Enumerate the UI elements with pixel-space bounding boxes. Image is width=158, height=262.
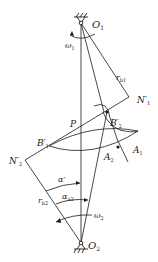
label-a2: A2	[103, 152, 114, 163]
label-alpha-a2: αa2	[62, 192, 74, 202]
contact-point-b2	[105, 110, 108, 113]
label-o2: O2	[88, 240, 100, 252]
label-b1-prime: B′1	[36, 138, 49, 149]
o1-a2-line	[81, 23, 104, 112]
label-rb1: rb1	[116, 73, 126, 83]
label-alpha-prime: α′	[58, 175, 65, 184]
base-radius-rb1	[81, 23, 129, 97]
label-n1-prime: N′1	[136, 95, 150, 106]
pivot-o1-icon	[74, 13, 88, 25]
label-a1: A1	[132, 145, 143, 156]
label-rb2: rb2	[38, 196, 48, 206]
alpha-a2-arrow-icon	[84, 198, 88, 202]
alpha-prime-arc	[46, 183, 80, 191]
label-b2-prime: B′2	[109, 118, 122, 129]
pivot-o2-icon	[74, 241, 88, 253]
label-omega2: ω2	[94, 211, 104, 221]
contact-point-a2	[116, 145, 119, 148]
label-p: P	[69, 119, 77, 129]
label-o1: O1	[92, 19, 104, 31]
omega2-arrow-icon	[56, 218, 61, 223]
label-omega1: ω1	[65, 41, 75, 51]
alpha-prime-arrow-icon	[76, 181, 80, 185]
omega1-arc	[70, 34, 95, 38]
label-n2-prime: N′2	[8, 156, 22, 167]
gear-mesh-diagram: O1 ω1 rb1 N′1 P B′2 B′1 A1 A2 N′2 α′ αa2…	[0, 0, 158, 262]
addendum-arc-lower	[49, 131, 138, 151]
